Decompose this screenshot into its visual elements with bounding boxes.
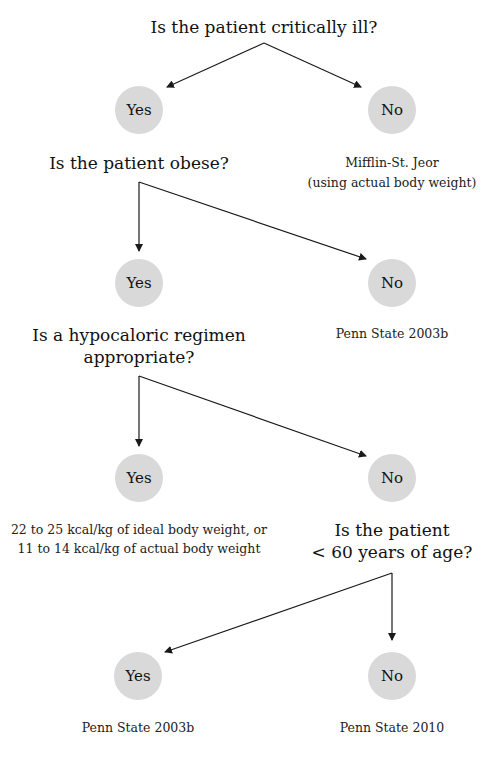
node-q2-yes: Yes <box>115 259 163 307</box>
arrow-q1-no <box>264 43 361 87</box>
question-hypocaloric-line1: Is a hypocaloric regimen <box>32 324 246 346</box>
question-obese: Is the patient obese? <box>49 152 229 174</box>
result-mifflin-note: (using actual body weight) <box>308 173 477 192</box>
node-q4-no: No <box>368 652 416 700</box>
node-q1-yes: Yes <box>115 86 163 134</box>
node-q1-no: No <box>368 86 416 134</box>
node-q2-no: No <box>368 259 416 307</box>
question-age-line1: Is the patient <box>334 519 449 541</box>
result-penn-state-2003b-obese-no: Penn State 2003b <box>336 324 449 343</box>
arrow-q3-no <box>139 376 366 456</box>
arrow-q1-yes <box>167 43 264 87</box>
result-penn-state-2010: Penn State 2010 <box>340 718 445 737</box>
question-critically-ill: Is the patient critically ill? <box>151 16 378 38</box>
result-mifflin-st-jeor: Mifflin-St. Jeor <box>345 153 438 172</box>
arrow-q4-yes <box>165 573 392 652</box>
question-age-line2: < 60 years of age? <box>312 541 473 563</box>
connector-arrows <box>0 0 499 758</box>
node-q3-no: No <box>368 454 416 502</box>
result-penn-state-2003b-age-yes: Penn State 2003b <box>82 718 195 737</box>
node-q4-yes: Yes <box>114 652 162 700</box>
question-hypocaloric-line2: appropriate? <box>84 346 195 368</box>
arrow-q2-no <box>139 182 366 259</box>
result-kcal-ideal: 22 to 25 kcal/kg of ideal body weight, o… <box>11 520 267 539</box>
node-q3-yes: Yes <box>115 454 163 502</box>
result-kcal-actual: 11 to 14 kcal/kg of actual body weight <box>18 539 261 558</box>
